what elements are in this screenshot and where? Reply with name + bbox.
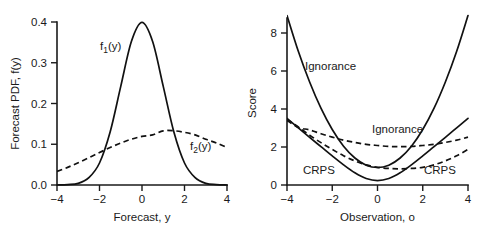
annotation-crps-solid: CRPS [303, 164, 335, 176]
right-ytick-label-2: 4 [271, 103, 278, 115]
annotation-f2: f2(y) [190, 140, 212, 155]
left-y-ticks [51, 22, 57, 185]
annotation-f1: f1(y) [100, 40, 122, 55]
annotation-crps-dashed: CRPS [424, 164, 456, 176]
right-ytick-label-3: 6 [271, 65, 277, 77]
annotation-f1-tail: (y) [108, 40, 122, 52]
svg-text:f1(y): f1(y) [100, 40, 122, 55]
left-panel: 0.0 0.1 0.2 0.3 0.4 −4 −2 0 2 4 Forecast… [9, 16, 231, 223]
left-ytick-label-0: 0.0 [31, 179, 47, 191]
right-xtick-label-0: −4 [280, 193, 294, 205]
right-ytick-label-0: 0 [271, 179, 277, 191]
right-xtick-label-3: 2 [420, 193, 426, 205]
annotation-f2-tail: (y) [198, 140, 212, 152]
left-xtick-label-4: 4 [224, 193, 231, 205]
left-ytick-label-1: 0.1 [31, 138, 47, 150]
left-ytick-label-2: 0.2 [31, 98, 47, 110]
figure-container: 0.0 0.1 0.2 0.3 0.4 −4 −2 0 2 4 Forecast… [0, 0, 486, 233]
right-ytick-label-4: 8 [271, 27, 277, 39]
annotation-ignorance-dashed: Ignorance [372, 123, 423, 135]
annotation-ignorance-solid: Ignorance [305, 60, 356, 72]
right-ytick-label-1: 2 [271, 141, 277, 153]
right-y-axis-title: Score [246, 88, 258, 118]
left-xtick-label-3: 2 [181, 193, 187, 205]
right-x-ticks [287, 185, 468, 191]
svg-text:f2(y): f2(y) [190, 140, 212, 155]
figure-svg: 0.0 0.1 0.2 0.3 0.4 −4 −2 0 2 4 Forecast… [0, 0, 486, 233]
right-y-ticks [281, 33, 287, 185]
left-xtick-label-2: 0 [139, 193, 145, 205]
left-ytick-label-3: 0.3 [31, 57, 47, 69]
left-xtick-label-1: −2 [93, 193, 106, 205]
left-x-ticks [57, 185, 227, 191]
left-ytick-label-4: 0.4 [31, 16, 48, 28]
right-xtick-label-1: −2 [326, 193, 339, 205]
right-panel: 0 2 4 6 8 −4 −2 0 2 4 Observation, o Sco… [246, 16, 472, 223]
right-xtick-label-4: 4 [465, 193, 472, 205]
left-y-axis-title: Forecast PDF, f(y) [9, 57, 21, 150]
left-x-axis-title: Forecast, y [114, 211, 171, 223]
left-xtick-label-0: −4 [50, 193, 64, 205]
right-xtick-label-2: 0 [374, 193, 380, 205]
right-x-axis-title: Observation, o [340, 211, 415, 223]
